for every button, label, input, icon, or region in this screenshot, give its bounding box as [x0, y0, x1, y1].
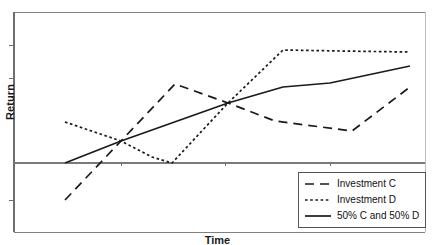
legend-item-blend-50-50[interactable]: 50% C and 50% D: [304, 208, 421, 224]
y-axis-label: Return: [4, 72, 16, 132]
series-line-blend-50-50: [65, 66, 410, 163]
legend-label-blend-50-50: 50% C and 50% D: [337, 211, 419, 221]
chart-legend: Investment C Investment D 50% C and 50% …: [298, 172, 426, 228]
legend-swatch-solid-icon: [304, 211, 332, 221]
x-axis-label: Time: [0, 234, 435, 245]
chart-container: Return Time Investment C Investment D: [0, 0, 435, 245]
legend-label-investment-d: Investment D: [337, 195, 396, 205]
legend-label-investment-c: Investment C: [337, 179, 396, 189]
legend-swatch-dashed-icon: [304, 179, 332, 189]
legend-item-investment-d[interactable]: Investment D: [304, 192, 421, 208]
legend-swatch-dotted-icon: [304, 195, 332, 205]
legend-item-investment-c[interactable]: Investment C: [304, 176, 421, 192]
